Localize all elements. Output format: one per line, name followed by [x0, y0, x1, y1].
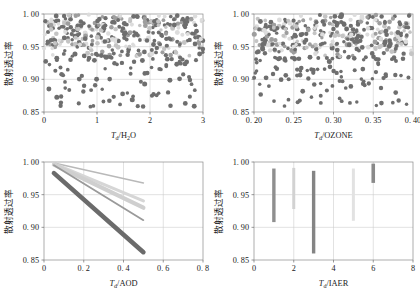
svg-text:0. 40: 0. 40	[405, 116, 420, 125]
svg-text:0. 6: 0. 6	[157, 264, 169, 273]
panel-ozone-plot-area: 0. 200. 250. 300. 350. 400. 850. 900. 95…	[213, 10, 420, 141]
svg-text:0: 0	[42, 264, 46, 273]
panel-aod-lines: 00. 20. 40. 60. 80. 850. 900. 951. 00散射透…	[0, 148, 210, 296]
panel-aod-svg: 00. 20. 40. 60. 80. 850. 900. 951. 00散射透…	[0, 148, 210, 296]
panel-ozone-scatter: 0. 200. 250. 300. 350. 400. 850. 900. 95…	[210, 0, 420, 148]
svg-text:0. 20: 0. 20	[246, 116, 262, 125]
svg-text:1. 00: 1. 00	[233, 10, 249, 19]
panel-h2o-scatter: 01230. 850. 900. 951. 00散射透过率Td/H2O	[0, 0, 210, 148]
svg-text:0: 0	[252, 264, 256, 273]
figure-root: 01230. 850. 900. 951. 00散射透过率Td/H2O 0. 2…	[0, 0, 420, 296]
svg-text:0. 2: 0. 2	[78, 264, 90, 273]
svg-text:0. 90: 0. 90	[233, 223, 249, 232]
svg-text:0. 85: 0. 85	[23, 108, 39, 117]
svg-text:0: 0	[42, 116, 46, 125]
svg-text:0. 85: 0. 85	[233, 108, 249, 117]
panel-h2o-svg: 01230. 850. 900. 951. 00散射透过率Td/H2O	[0, 0, 210, 148]
svg-text:Td/H2O: Td/H2O	[111, 131, 136, 141]
svg-text:0. 95: 0. 95	[23, 43, 39, 52]
panel-iaer-bars: 024680. 850. 900. 951. 00散射透过率Td/IAER	[210, 148, 420, 296]
panel-aod-plot-area: 00. 20. 40. 60. 80. 850. 900. 951. 00散射透…	[3, 158, 209, 289]
svg-text:Td/IAER: Td/IAER	[319, 279, 349, 289]
svg-text:0. 90: 0. 90	[233, 75, 249, 84]
svg-text:3: 3	[201, 116, 205, 125]
svg-text:6: 6	[371, 264, 375, 273]
svg-text:0. 8: 0. 8	[197, 264, 209, 273]
svg-text:0. 85: 0. 85	[233, 256, 249, 265]
svg-text:8: 8	[411, 264, 415, 273]
svg-text:散射透过率: 散射透过率	[3, 41, 14, 86]
panel-ozone-svg: 0. 200. 250. 300. 350. 400. 850. 900. 95…	[210, 0, 420, 148]
svg-text:0. 35: 0. 35	[365, 116, 381, 125]
svg-text:1. 00: 1. 00	[23, 10, 39, 19]
svg-text:0. 95: 0. 95	[233, 191, 249, 200]
svg-text:0. 85: 0. 85	[23, 256, 39, 265]
svg-text:Td/OZONE: Td/OZONE	[314, 131, 352, 141]
svg-text:2: 2	[292, 264, 296, 273]
svg-text:散射透过率: 散射透过率	[3, 189, 14, 234]
svg-text:0. 90: 0. 90	[23, 223, 39, 232]
panel-h2o-plot-area: 01230. 850. 900. 951. 00散射透过率Td/H2O	[3, 10, 205, 141]
svg-text:散射透过率: 散射透过率	[213, 41, 224, 86]
svg-text:2: 2	[148, 116, 152, 125]
svg-text:4: 4	[331, 264, 335, 273]
svg-text:0. 25: 0. 25	[286, 116, 302, 125]
svg-text:1. 00: 1. 00	[233, 158, 249, 167]
svg-text:1. 00: 1. 00	[23, 158, 39, 167]
svg-text:0. 4: 0. 4	[117, 264, 129, 273]
panel-iaer-plot-area: 024680. 850. 900. 951. 00散射透过率Td/IAER	[213, 158, 415, 289]
svg-text:0. 95: 0. 95	[23, 191, 39, 200]
panel-iaer-svg: 024680. 850. 900. 951. 00散射透过率Td/IAER	[210, 148, 420, 296]
svg-text:1: 1	[95, 116, 99, 125]
svg-text:0. 30: 0. 30	[325, 116, 341, 125]
svg-text:Td/AOD: Td/AOD	[109, 279, 137, 289]
svg-text:0. 95: 0. 95	[233, 43, 249, 52]
svg-text:0. 90: 0. 90	[23, 75, 39, 84]
svg-text:散射透过率: 散射透过率	[213, 189, 224, 234]
